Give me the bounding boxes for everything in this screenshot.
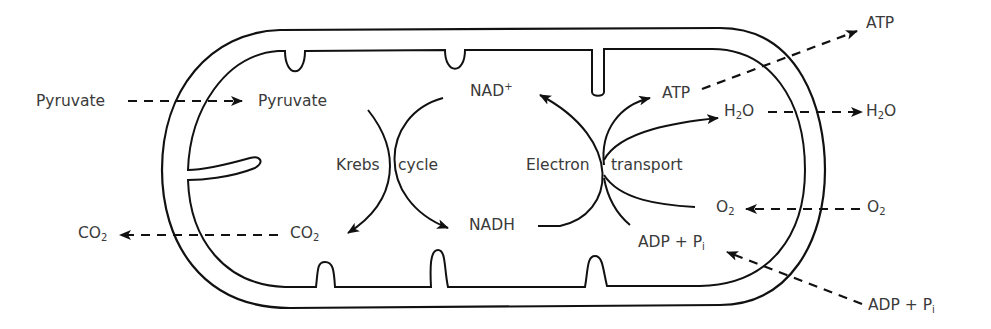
label-pyruvate-outside: Pyruvate — [36, 94, 105, 110]
adp-outside-sub: i — [932, 304, 935, 315]
o2-outside-base: O — [867, 198, 879, 216]
nad-sup: + — [504, 81, 512, 92]
label-adp-pi-inside: ADP + Pi — [638, 235, 705, 251]
co2-outside-base: CO — [78, 224, 101, 242]
label-adp-pi-outside: ADP + Pi — [868, 298, 935, 314]
adp-outside-base: ADP + P — [868, 296, 932, 314]
label-atp-inside: ATP — [662, 86, 690, 102]
label-co2-outside: CO2 — [78, 226, 107, 242]
nad-base: NAD — [470, 82, 504, 100]
label-atp-outside: ATP — [866, 16, 894, 32]
label-o2-inside: O2 — [716, 200, 735, 216]
h2o-inside-o: O — [742, 102, 754, 120]
label-pyruvate-inside: Pyruvate — [258, 94, 327, 110]
h2o-outside-h: H — [866, 102, 878, 120]
et-arc-h2o — [604, 118, 718, 160]
label-transport: transport — [611, 158, 683, 174]
adp-inside-sub: i — [702, 241, 705, 252]
outer-membrane — [162, 28, 825, 308]
o2-inside-base: O — [716, 198, 728, 216]
h2o-inside-h: H — [724, 102, 736, 120]
label-o2-outside: O2 — [867, 200, 886, 216]
label-electron: Electron — [526, 158, 590, 174]
adp-inside-base: ADP + P — [638, 233, 702, 251]
label-h2o-inside: H2O — [724, 104, 754, 120]
co2-outside-sub: 2 — [101, 232, 107, 243]
co2-inside-sub: 2 — [313, 232, 319, 243]
label-cycle: cycle — [398, 158, 438, 174]
label-h2o-outside: H2O — [866, 104, 896, 120]
mitochondrion-diagram — [0, 0, 991, 329]
label-nad-plus: NAD+ — [470, 84, 513, 100]
o2-inside-sub: 2 — [728, 206, 734, 217]
label-co2-inside: CO2 — [290, 226, 319, 242]
o2-outside-sub: 2 — [879, 206, 885, 217]
label-krebs: Krebs — [336, 158, 380, 174]
et-arc-o2 — [604, 175, 695, 207]
h2o-outside-o: O — [884, 102, 896, 120]
label-nadh: NADH — [469, 218, 515, 234]
et-arc-adp — [604, 178, 630, 225]
atp-export-arrow — [702, 31, 857, 89]
co2-inside-base: CO — [290, 224, 313, 242]
adp-import-arrow — [727, 252, 862, 304]
